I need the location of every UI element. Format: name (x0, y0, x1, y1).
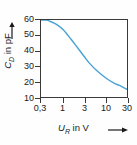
y-tick-label-30: 30 (14, 62, 34, 71)
y-axis-symbol: C (2, 62, 13, 69)
curve-svg (41, 20, 127, 97)
chart-figure: CD in pF 60 50 40 30 20 10 0,3 1 3 10 30… (0, 0, 137, 145)
x-axis-symbol: U (58, 122, 65, 133)
arrow-right-icon (108, 126, 128, 134)
plot-area (40, 19, 128, 98)
y-tick-label-20: 20 (14, 78, 34, 87)
data-curve-c-d (41, 20, 127, 89)
x-tick-label-3: 3 (73, 104, 97, 113)
x-tick-label-0-3: 0,3 (28, 104, 52, 113)
y-tick-label-50: 50 (14, 30, 34, 39)
x-axis-title: UR in V (58, 122, 89, 135)
y-tick-label-40: 40 (14, 46, 34, 55)
x-axis-unit: in V (70, 122, 89, 133)
x-tick-label-30: 30 (115, 104, 137, 113)
y-axis-unit: in pF (2, 33, 13, 57)
x-tick-label-1: 1 (51, 104, 75, 113)
y-tick-label-10: 10 (14, 94, 34, 103)
y-tick-label-60: 60 (14, 15, 34, 24)
